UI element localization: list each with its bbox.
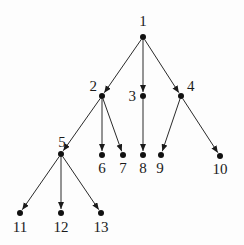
edge-4-10 — [183, 99, 218, 153]
node-10 — [217, 153, 223, 159]
labels-layer: 12345678910111213 — [13, 13, 228, 235]
edge-1-2 — [104, 39, 141, 92]
tree-diagram: 12345678910111213 — [0, 0, 244, 245]
node-label-11: 11 — [13, 219, 27, 235]
node-label-7: 7 — [119, 160, 127, 176]
node-label-8: 8 — [139, 160, 147, 176]
node-8 — [140, 152, 146, 158]
node-12 — [58, 210, 64, 216]
edge-1-4 — [145, 40, 179, 93]
edge-2-5 — [63, 98, 100, 150]
edge-5-11 — [22, 156, 59, 209]
node-3 — [140, 93, 146, 99]
node-label-13: 13 — [94, 219, 109, 235]
edge-4-9 — [162, 99, 180, 151]
node-11 — [17, 210, 23, 216]
node-label-2: 2 — [90, 78, 98, 94]
node-6 — [99, 152, 105, 158]
node-label-9: 9 — [156, 160, 164, 176]
tree-diagram-svg: 12345678910111213 — [0, 0, 244, 245]
node-1 — [140, 34, 146, 40]
node-label-4: 4 — [187, 78, 195, 94]
edges-layer — [22, 39, 218, 209]
node-label-1: 1 — [139, 13, 147, 29]
node-5 — [58, 151, 64, 157]
node-label-5: 5 — [58, 134, 66, 150]
node-7 — [120, 152, 126, 158]
node-4 — [178, 93, 184, 99]
node-label-12: 12 — [54, 219, 69, 235]
edge-2-7 — [103, 99, 122, 151]
node-label-6: 6 — [98, 160, 106, 176]
node-9 — [158, 152, 164, 158]
edge-5-13 — [63, 156, 99, 209]
node-2 — [99, 93, 105, 99]
nodes-layer — [17, 34, 223, 216]
node-label-10: 10 — [213, 161, 228, 177]
node-label-3: 3 — [129, 88, 137, 104]
node-13 — [98, 210, 104, 216]
